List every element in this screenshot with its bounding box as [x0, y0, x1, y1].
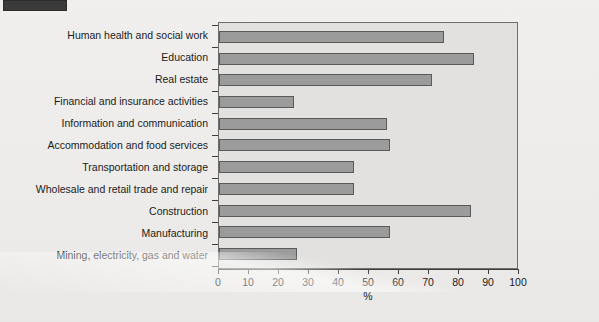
value-tick: [368, 269, 369, 274]
bar: [219, 118, 387, 130]
value-tick: [458, 269, 459, 274]
category-axis-labels: Human health and social workEducationRea…: [0, 22, 213, 269]
bar-chart-figure: Human health and social workEducationRea…: [0, 0, 599, 322]
bar-row: [219, 201, 517, 220]
bar-row: [219, 179, 517, 198]
category-label: Mining, electricity, gas and water: [0, 246, 213, 265]
bar: [219, 53, 474, 65]
value-tick: [218, 269, 219, 274]
bar-row: [219, 71, 517, 90]
value-tick-label: 60: [383, 276, 413, 288]
value-tick-label: 0: [203, 276, 233, 288]
value-tick: [308, 269, 309, 274]
category-label: Financial and insurance activities: [0, 92, 213, 111]
bar-row: [219, 114, 517, 133]
bar-series: [219, 23, 517, 268]
category-label: Education: [0, 48, 213, 67]
bar-row: [219, 136, 517, 155]
value-tick: [248, 269, 249, 274]
bar-row: [219, 49, 517, 68]
bar: [219, 226, 390, 238]
category-label: Real estate: [0, 70, 213, 89]
bar-row: [219, 223, 517, 242]
bar: [219, 31, 444, 43]
value-tick: [428, 269, 429, 274]
bar: [219, 205, 471, 217]
bar-row: [219, 27, 517, 46]
value-tick-label: 30: [293, 276, 323, 288]
value-tick-label: 20: [263, 276, 293, 288]
category-label: Accommodation and food services: [0, 136, 213, 155]
value-tick: [518, 269, 519, 274]
bar-row: [219, 158, 517, 177]
bar-row: [219, 245, 517, 264]
value-tick-label: 50: [353, 276, 383, 288]
value-tick-label: 70: [413, 276, 443, 288]
value-tick: [398, 269, 399, 274]
category-label: Wholesale and retail trade and repair: [0, 180, 213, 199]
category-label: Manufacturing: [0, 224, 213, 243]
value-tick-label: 100: [503, 276, 533, 288]
bar: [219, 183, 354, 195]
bar: [219, 96, 294, 108]
category-label: Human health and social work: [0, 26, 213, 45]
bar: [219, 248, 297, 260]
bar-row: [219, 93, 517, 112]
value-tick: [488, 269, 489, 274]
category-label: Transportation and storage: [0, 158, 213, 177]
value-axis-title: %: [218, 290, 518, 302]
value-tick-label: 90: [473, 276, 503, 288]
bar: [219, 161, 354, 173]
plot-area: [218, 22, 518, 269]
category-label: Construction: [0, 202, 213, 221]
value-tick-label: 40: [323, 276, 353, 288]
value-tick: [338, 269, 339, 274]
category-label: Information and communication: [0, 114, 213, 133]
value-tick-label: 80: [443, 276, 473, 288]
value-tick-label: 10: [233, 276, 263, 288]
value-tick: [278, 269, 279, 274]
bar: [219, 74, 432, 86]
bar: [219, 139, 390, 151]
